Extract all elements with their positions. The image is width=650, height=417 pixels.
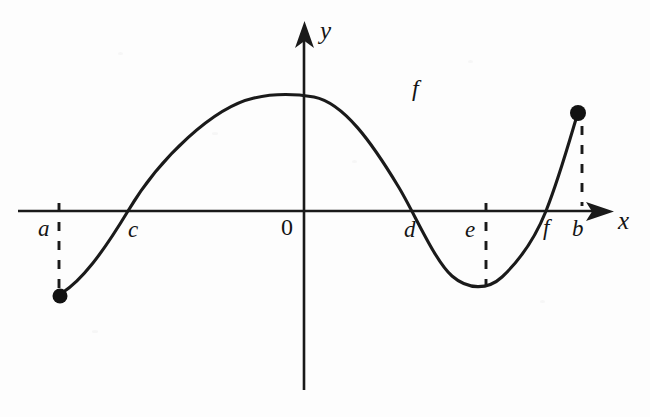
right-endpoint-dot	[570, 105, 586, 121]
point-label-c: c	[128, 218, 138, 241]
left-endpoint-dot	[53, 289, 68, 304]
point-label-f: f	[543, 216, 549, 239]
point-label-e: e	[465, 218, 475, 241]
y-axis-label: y	[320, 18, 331, 43]
point-label-d: d	[404, 218, 416, 241]
function-graph-figure: x y 0 f a c d e f b	[0, 0, 650, 417]
point-label-b: b	[572, 217, 584, 240]
function-curve	[62, 95, 576, 294]
origin-label: 0	[281, 215, 293, 239]
x-axis-label: x	[618, 208, 629, 233]
graph-canvas	[0, 0, 650, 417]
point-label-a: a	[38, 217, 50, 240]
curve-function-label: f	[412, 76, 419, 100]
